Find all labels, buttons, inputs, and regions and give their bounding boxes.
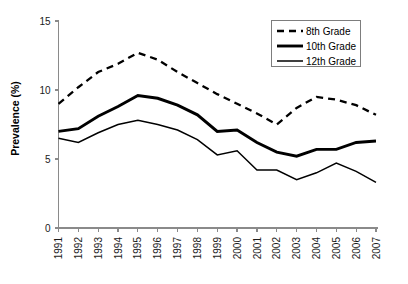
legend-label-10th-grade: 10th Grade (306, 41, 356, 52)
legend-label-12th-grade: 12th Grade (306, 56, 356, 67)
x-tick-label: 2002 (271, 237, 282, 260)
x-tick-label: 1994 (113, 237, 124, 260)
x-tick-label: 2001 (252, 237, 263, 260)
chart-series (59, 53, 377, 183)
x-tick-label: 2007 (371, 237, 382, 260)
x-tick-label: 2006 (351, 237, 362, 260)
x-tick-label: 2005 (331, 237, 342, 260)
x-tick-label: 1997 (172, 237, 183, 260)
x-tick-label: 1993 (93, 237, 104, 260)
y-tick-label: 5 (45, 154, 51, 165)
y-tick-label: 15 (39, 16, 51, 27)
x-tick-label: 2000 (232, 237, 243, 260)
chart-canvas: 8th Grade10th Grade12th Grade 0510151991… (0, 0, 408, 284)
x-tick-label: 1999 (212, 237, 223, 260)
series-line-10th-grade (59, 96, 377, 157)
legend-label-8th-grade: 8th Grade (306, 26, 351, 37)
y-tick-label: 0 (45, 223, 51, 234)
y-axis-title: Prevalence (%) (9, 81, 21, 156)
x-tick-label: 1996 (152, 237, 163, 260)
y-tick-label: 10 (39, 85, 51, 96)
x-tick-label: 1991 (53, 237, 64, 260)
x-tick-label: 2003 (291, 237, 302, 260)
x-tick-label: 1992 (73, 237, 84, 260)
prevalence-line-chart: 8th Grade10th Grade12th Grade 0510151991… (0, 0, 408, 284)
x-tick-label: 1995 (132, 237, 143, 260)
chart-legend: 8th Grade10th Grade12th Grade (271, 20, 360, 67)
x-tick-label: 2004 (311, 237, 322, 260)
x-tick-label: 1998 (192, 237, 203, 260)
